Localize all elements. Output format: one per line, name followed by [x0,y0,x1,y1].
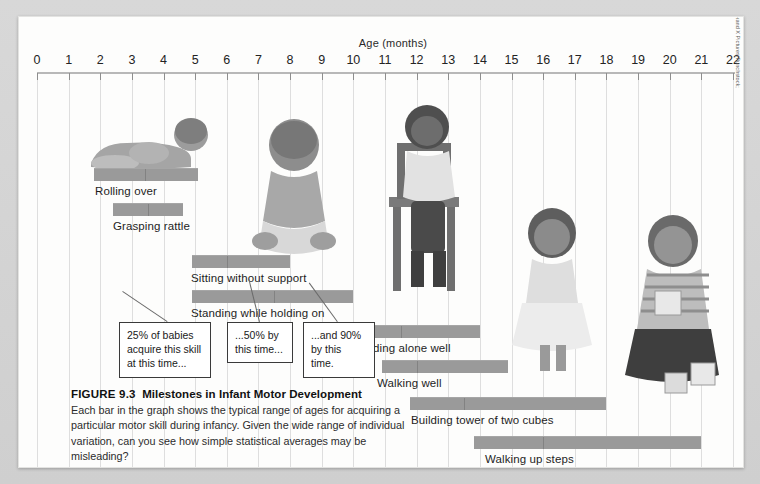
tick-mark-21 [701,73,702,80]
tick-label-8: 8 [287,53,294,67]
tick-mark-15 [512,73,513,80]
tick-mark-19 [638,73,639,80]
tick-mark-1 [69,73,70,80]
callout-90-percent: ...and 90% by this time. [303,322,375,378]
tick-mark-3 [132,73,133,80]
tick-label-9: 9 [318,53,325,67]
bar-sitting-without-support [192,255,290,268]
bar-label-grasping-rattle: Grasping rattle [113,220,190,232]
bar-median-divider [145,169,146,181]
axis-rule [37,72,735,74]
tick-mark-4 [164,73,165,80]
tick-label-12: 12 [410,53,424,67]
photo-infant-sitting [249,117,339,267]
photo-credit: (left to right) Babies Photolibrary/Alam… [727,16,741,91]
tick-label-6: 6 [223,53,230,67]
tick-mark-8 [290,73,291,80]
tick-label-18: 18 [600,53,614,67]
tick-mark-14 [480,73,481,80]
axis-title-label: Age (months) [359,37,427,49]
axis-title: Age (months) [19,37,743,49]
caption-title: FIGURE 9.3 Milestones in Infant Motor De… [71,388,419,400]
tick-mark-7 [258,73,259,80]
gridline-month-1 [69,73,70,468]
gridline-month-18 [606,73,607,468]
bar-grasping-rattle [113,203,183,216]
tick-label-17: 17 [568,53,582,67]
bar-median-divider [464,398,465,410]
bar-median-divider [227,256,228,268]
tick-mark-13 [448,73,449,80]
photo-infant-standing-holding-chair [371,101,481,301]
tick-label-13: 13 [441,53,455,67]
tick-label-10: 10 [346,53,360,67]
callout-25-text: 25% of babies acquire this skill at this… [127,329,201,369]
bar-median-divider [543,437,544,449]
tick-mark-6 [227,73,228,80]
photo-infant-rolling-over [79,113,219,171]
tick-mark-5 [195,73,196,80]
bar-label-rolling-over: Rolling over [95,185,157,197]
tick-label-3: 3 [128,53,135,67]
callout-50-percent: ...50% by this time... [227,322,293,363]
tick-mark-11 [385,73,386,80]
tick-mark-18 [606,73,607,80]
callout-90-text: ...and 90% by this time. [311,329,361,369]
bar-building-tower-of-two-cubes [410,397,606,410]
photo-toddler-standing [506,207,598,375]
tick-label-16: 16 [536,53,550,67]
caption-body: Each bar in the graph shows the typical … [71,403,419,464]
bar-median-divider [274,291,275,303]
tick-label-1: 1 [65,53,72,67]
tick-mark-20 [670,73,671,80]
bar-rolling-over [94,168,198,181]
caption-title-text: Milestones in Infant Motor Development [142,388,362,400]
tick-label-19: 19 [631,53,645,67]
tick-label-4: 4 [160,53,167,67]
bar-label-building-tower-of-two-cubes: Building tower of two cubes [411,414,554,426]
tick-label-2: 2 [97,53,104,67]
tick-label-20: 20 [663,53,677,67]
tick-label-0: 0 [34,53,41,67]
tick-label-15: 15 [505,53,519,67]
tick-label-21: 21 [694,53,708,67]
tick-label-14: 14 [473,53,487,67]
tick-label-5: 5 [192,53,199,67]
figure-card: Age (months) 012345678910111213141516171… [18,16,744,468]
figure-page: Age (months) 012345678910111213141516171… [0,0,760,484]
bar-median-divider [148,204,149,216]
gridline-month-0 [37,73,38,468]
callout-50-text: ...50% by this time... [235,329,283,355]
bar-walking-well [382,360,509,373]
tick-mark-0 [37,73,38,80]
caption-figure-number: FIGURE 9.3 [71,388,136,400]
gridline-month-22 [733,73,734,468]
bar-median-divider [401,326,402,338]
tick-mark-10 [353,73,354,80]
tick-mark-2 [100,73,101,80]
tick-mark-17 [575,73,576,80]
callout-25-percent: 25% of babies acquire this skill at this… [119,322,211,378]
tick-mark-9 [322,73,323,80]
tick-mark-16 [543,73,544,80]
bar-median-divider [417,361,418,373]
bar-walking-up-steps [474,436,702,449]
tick-label-7: 7 [255,53,262,67]
tick-label-11: 11 [379,53,392,67]
leader-line-25 [122,291,167,322]
figure-caption: FIGURE 9.3 Milestones in Infant Motor De… [71,388,419,464]
bar-standing-while-holding-on [192,290,353,303]
bar-label-walking-up-steps: Walking up steps [485,453,574,465]
photo-toddler-with-blocks [615,213,731,403]
tick-mark-12 [417,73,418,80]
